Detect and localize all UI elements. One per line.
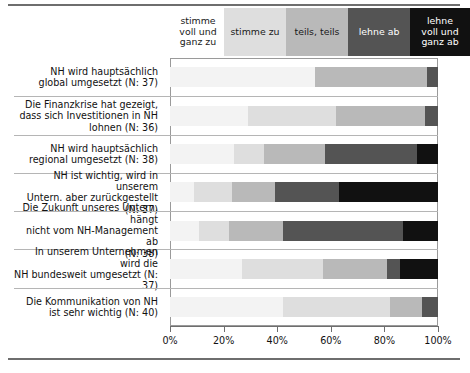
chart-row: NH wird hauptsächlichglobal umgesetzt (N… bbox=[14, 58, 438, 96]
x-axis-tick-label: 80% bbox=[374, 335, 395, 346]
stacked-bar bbox=[170, 297, 438, 317]
row-label: Die Zukunft unseres Untern. hängtnicht v… bbox=[14, 212, 164, 249]
row-label-line: NH wird hauptsächlich bbox=[39, 66, 158, 77]
x-axis-tick-label: 60% bbox=[320, 335, 341, 346]
legend-label-line2: voll und bbox=[179, 26, 216, 37]
bar-segment-1 bbox=[248, 106, 336, 126]
x-axis-tick bbox=[438, 326, 439, 332]
chart-row: NH wird hauptsächlichregional umgesetzt … bbox=[14, 135, 438, 173]
stacked-bar bbox=[170, 106, 438, 126]
row-label: NH wird hauptsächlichregional umgesetzt … bbox=[14, 136, 164, 173]
row-label-line: regional umgesetzt (N: 38) bbox=[29, 154, 158, 165]
bar-segment-3 bbox=[283, 221, 404, 241]
stacked-bar bbox=[170, 259, 438, 279]
legend-item-stimme-voll-und-ganz-zu: stimme voll und ganz zu bbox=[172, 8, 224, 56]
bar-segment-3 bbox=[325, 144, 416, 164]
x-axis-tick bbox=[170, 326, 171, 332]
legend-label-line1: stimme bbox=[180, 15, 215, 26]
row-label-line: In unserem Unternehmen wird die bbox=[14, 246, 158, 269]
chart-rows: NH wird hauptsächlichglobal umgesetzt (N… bbox=[14, 58, 438, 326]
x-axis-tick bbox=[224, 326, 225, 332]
bar-segment-2 bbox=[390, 297, 422, 317]
row-label-line: global umgesetzt (N: 37) bbox=[39, 77, 158, 88]
legend-label-line3: ganz ab bbox=[421, 36, 458, 47]
bar-segment-0 bbox=[170, 67, 315, 87]
chart-row: Die Kommunikation von NHist sehr wichtig… bbox=[14, 288, 438, 326]
bar-segment-0 bbox=[170, 144, 234, 164]
x-axis-tick bbox=[277, 326, 278, 332]
x-axis-tick bbox=[331, 326, 332, 332]
row-label: In unserem Unternehmen wird dieNH bundes… bbox=[14, 250, 164, 287]
bar-segment-2 bbox=[264, 144, 326, 164]
row-label-line: Die Finanzkrise hat gezeigt, bbox=[19, 99, 158, 110]
stacked-bar bbox=[170, 67, 438, 87]
bar-segment-4 bbox=[400, 259, 438, 279]
bar-segment-4 bbox=[417, 144, 438, 164]
bottom-divider-rule bbox=[8, 358, 460, 360]
bar-segment-3 bbox=[425, 106, 438, 126]
bar-segment-2 bbox=[323, 259, 387, 279]
stacked-bar bbox=[170, 182, 438, 202]
x-axis-tick-label: 0% bbox=[162, 335, 177, 346]
bar-segment-0 bbox=[170, 106, 248, 126]
chart-row: Die Zukunft unseres Untern. hängtnicht v… bbox=[14, 211, 438, 249]
bar-segment-4 bbox=[403, 221, 438, 241]
bar-segment-4 bbox=[339, 182, 438, 202]
bar-segment-3 bbox=[427, 67, 438, 87]
stacked-bar bbox=[170, 144, 438, 164]
legend-label-line1: teils, teils bbox=[294, 27, 339, 38]
row-label-line: Die Zukunft unseres Untern. hängt bbox=[14, 202, 158, 225]
row-label-line: lohnen (N: 36) bbox=[19, 122, 158, 133]
row-label-line: NH ist wichtig, wird in unserem bbox=[14, 170, 158, 193]
bar-segment-1 bbox=[234, 144, 263, 164]
row-label-line: nicht vom NH-Management ab bbox=[14, 225, 158, 248]
row-label-line: NH wird hauptsächlich bbox=[29, 143, 158, 154]
bar-segment-1 bbox=[194, 182, 232, 202]
bar-segment-2 bbox=[229, 221, 283, 241]
row-label-line: dass sich Investitionen in NH bbox=[19, 110, 158, 121]
x-axis-tick-label: 20% bbox=[213, 335, 234, 346]
bar-segment-1 bbox=[242, 259, 322, 279]
row-label: Die Finanzkrise hat gezeigt,dass sich In… bbox=[14, 97, 164, 134]
bar-segment-2 bbox=[315, 67, 428, 87]
bar-segment-2 bbox=[232, 182, 275, 202]
legend-label-line1: stimme zu bbox=[230, 27, 279, 38]
row-label-line: ist sehr wichtig (N: 40) bbox=[26, 307, 158, 318]
stacked-bar bbox=[170, 221, 438, 241]
bar-segment-0 bbox=[170, 182, 194, 202]
chart-legend: stimme voll und ganz zu stimme zu teils,… bbox=[172, 8, 470, 56]
legend-label-line2: voll und bbox=[421, 26, 458, 37]
x-axis-line bbox=[170, 326, 438, 327]
legend-item-stimme-zu: stimme zu bbox=[224, 8, 286, 56]
bar-segment-1 bbox=[283, 297, 390, 317]
legend-item-teils-teils: teils, teils bbox=[286, 8, 348, 56]
legend-label-line1: lehne ab bbox=[359, 27, 400, 38]
bar-segment-3 bbox=[422, 297, 438, 317]
row-label-line: Die Kommunikation von NH bbox=[26, 296, 158, 307]
x-axis-tick-label: 40% bbox=[267, 335, 288, 346]
top-divider-rule bbox=[8, 4, 460, 6]
row-label: Die Kommunikation von NHist sehr wichtig… bbox=[14, 289, 164, 326]
chart-row: In unserem Unternehmen wird dieNH bundes… bbox=[14, 249, 438, 287]
bar-segment-3 bbox=[387, 259, 400, 279]
bar-segment-0 bbox=[170, 259, 242, 279]
bar-segment-0 bbox=[170, 297, 283, 317]
legend-item-lehne-voll-und-ganz-ab: lehne voll und ganz ab bbox=[410, 8, 470, 56]
chart-row: Die Finanzkrise hat gezeigt,dass sich In… bbox=[14, 96, 438, 134]
bar-segment-1 bbox=[199, 221, 228, 241]
legend-item-lehne-ab: lehne ab bbox=[348, 8, 410, 56]
legend-label-line1: lehne bbox=[427, 15, 453, 26]
x-axis-tick-label: 100% bbox=[424, 335, 451, 346]
legend-label-line3: ganz zu bbox=[180, 36, 216, 47]
bar-segment-0 bbox=[170, 221, 199, 241]
x-axis-tick bbox=[384, 326, 385, 332]
x-axis: 0%20%40%60%80%100% bbox=[170, 326, 438, 356]
row-label: NH wird hauptsächlichglobal umgesetzt (N… bbox=[14, 58, 164, 96]
bar-segment-3 bbox=[275, 182, 339, 202]
bar-segment-2 bbox=[336, 106, 424, 126]
